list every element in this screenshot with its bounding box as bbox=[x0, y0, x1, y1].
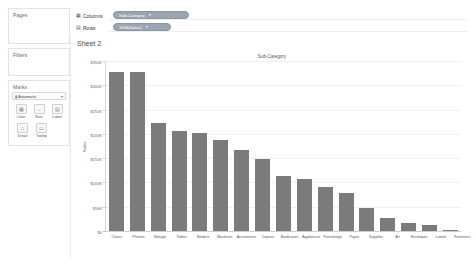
bar-slot[interactable] bbox=[210, 62, 231, 231]
plot-area: Sales $0$50K$100K$150K$200K$250K$300K$35… bbox=[105, 62, 461, 232]
y-tick-label: $350K bbox=[90, 60, 102, 65]
bar-mark[interactable] bbox=[151, 123, 166, 231]
bar-slot[interactable] bbox=[273, 62, 294, 231]
pages-card[interactable]: Pages bbox=[8, 8, 70, 44]
marks-tooltip-button[interactable]: ▭ Tooltip bbox=[35, 123, 48, 138]
x-axis-label[interactable]: Phones bbox=[128, 234, 150, 248]
x-axis-label[interactable]: Art bbox=[387, 234, 409, 248]
x-axis-label[interactable]: Tables bbox=[171, 234, 193, 248]
bar-mark[interactable] bbox=[109, 72, 124, 231]
bar-mark[interactable] bbox=[359, 208, 374, 231]
filters-card[interactable]: Filters bbox=[8, 48, 70, 76]
bar-mark[interactable] bbox=[276, 176, 291, 231]
chevron-down-icon[interactable]: ▾ bbox=[149, 13, 151, 17]
color-icon: ▦ bbox=[16, 104, 27, 114]
mark-type-dropdown[interactable]: ▮ Automatic ▾ bbox=[12, 92, 66, 100]
marks-tooltip-label: Tooltip bbox=[36, 134, 47, 138]
columns-shelf-icon: ▦ bbox=[76, 13, 81, 18]
bar-mark[interactable] bbox=[318, 187, 333, 231]
marks-color-button[interactable]: ▦ Color bbox=[15, 104, 28, 119]
columns-shelf-dropzone[interactable]: Sub-Category ▾ bbox=[109, 11, 468, 20]
bar-slot[interactable] bbox=[419, 62, 440, 231]
y-tick-mark bbox=[103, 61, 105, 62]
y-tick-label: $250K bbox=[90, 108, 102, 113]
x-axis-label[interactable]: Supplies bbox=[365, 234, 387, 248]
pill-sum-sales[interactable]: SUM(Sales) ▾ bbox=[113, 23, 171, 31]
chevron-down-icon[interactable]: ▾ bbox=[146, 25, 148, 29]
y-tick-mark bbox=[103, 231, 105, 232]
bar-mark[interactable] bbox=[130, 72, 145, 231]
x-axis-label[interactable]: Machines bbox=[214, 234, 236, 248]
bar-slot[interactable] bbox=[252, 62, 273, 231]
bar-mark[interactable] bbox=[297, 179, 312, 231]
marks-size-button[interactable]: ⇔ Size bbox=[33, 104, 46, 119]
x-axis-label[interactable]: Bookcases bbox=[279, 234, 301, 248]
marks-detail-button[interactable]: ∴ Detail bbox=[16, 123, 29, 138]
bar-mark[interactable] bbox=[192, 133, 207, 231]
x-axis-label[interactable]: Binders bbox=[192, 234, 214, 248]
y-tick-mark bbox=[103, 207, 105, 208]
detail-icon: ∴ bbox=[17, 123, 28, 133]
bar-slot[interactable] bbox=[148, 62, 169, 231]
bar-mark[interactable] bbox=[213, 140, 228, 231]
marks-card[interactable]: Marks ▮ Automatic ▾ ▦ Color ⇔ Size bbox=[8, 80, 70, 146]
plot-inner: $0$50K$100K$150K$200K$250K$300K$350K bbox=[105, 62, 461, 232]
bar-slot[interactable] bbox=[106, 62, 127, 231]
sheet-title: Sheet 2 bbox=[77, 40, 101, 47]
worksheet-canvas[interactable]: Sheet 2 Sub-Category Sales $0$50K$100K$1… bbox=[70, 36, 473, 258]
pill-sub-category[interactable]: Sub-Category ▾ bbox=[113, 11, 189, 19]
bar-slot[interactable] bbox=[315, 62, 336, 231]
bar-slot[interactable] bbox=[294, 62, 315, 231]
marks-label-button[interactable]: ▤ Label bbox=[51, 104, 64, 119]
bar-mark[interactable] bbox=[422, 225, 437, 231]
x-axis-label[interactable]: Labels bbox=[430, 234, 452, 248]
y-tick-mark bbox=[103, 182, 105, 183]
x-axis-label[interactable]: Copiers bbox=[257, 234, 279, 248]
bar-slot[interactable] bbox=[377, 62, 398, 231]
bar-mark[interactable] bbox=[339, 193, 354, 231]
bar-slot[interactable] bbox=[169, 62, 190, 231]
x-axis-label[interactable]: Fasteners bbox=[452, 234, 474, 248]
x-axis-label[interactable]: Accessories bbox=[236, 234, 258, 248]
marks-color-label: Color bbox=[16, 115, 25, 119]
y-axis-title: Sales bbox=[82, 142, 87, 152]
y-tick-label: $150K bbox=[90, 157, 102, 162]
x-axis-label[interactable]: Envelopes bbox=[408, 234, 430, 248]
rows-shelf[interactable]: ▤ Rows SUM(Sales) ▾ bbox=[76, 23, 468, 32]
label-icon: ▤ bbox=[52, 104, 63, 114]
marks-button-row-primary: ▦ Color ⇔ Size ▤ Label bbox=[12, 104, 66, 119]
bar-slot[interactable] bbox=[231, 62, 252, 231]
marks-detail-label: Detail bbox=[18, 134, 28, 138]
y-tick-label: $50K bbox=[93, 205, 102, 210]
bar-mark[interactable] bbox=[380, 218, 395, 231]
bar-slot[interactable] bbox=[127, 62, 148, 231]
bar-slot[interactable] bbox=[440, 62, 461, 231]
bar-mark-icon: ▮ bbox=[15, 94, 17, 99]
size-icon: ⇔ bbox=[34, 104, 45, 114]
rows-shelf-dropzone[interactable]: SUM(Sales) ▾ bbox=[109, 23, 468, 32]
filters-card-title: Filters bbox=[13, 52, 27, 58]
tableau-worksheet-window: Pages Filters Marks ▮ Automatic ▾ ▦ Colo… bbox=[0, 0, 476, 267]
pill-sub-category-text: Sub-Category bbox=[119, 13, 145, 18]
y-tick-mark bbox=[103, 134, 105, 135]
marks-card-body: ▮ Automatic ▾ ▦ Color ⇔ Size ▤ Lab bbox=[12, 92, 66, 142]
bar-mark[interactable] bbox=[234, 150, 249, 231]
chart-title: Sub-Category bbox=[71, 54, 473, 59]
columns-shelf[interactable]: ▦ Columns Sub-Category ▾ bbox=[76, 11, 468, 20]
x-axis-label[interactable]: Appliances bbox=[300, 234, 322, 248]
x-axis-label[interactable]: Chairs bbox=[106, 234, 128, 248]
x-axis-label[interactable]: Paper bbox=[344, 234, 366, 248]
bar-mark[interactable] bbox=[255, 159, 270, 231]
pill-sum-sales-text: SUM(Sales) bbox=[119, 25, 142, 30]
bar-mark[interactable] bbox=[443, 230, 458, 231]
x-axis-label[interactable]: Storage bbox=[149, 234, 171, 248]
bar-slot[interactable] bbox=[190, 62, 211, 231]
bar-slot[interactable] bbox=[398, 62, 419, 231]
bar-slot[interactable] bbox=[357, 62, 378, 231]
x-axis-label[interactable]: Furnishings bbox=[322, 234, 344, 248]
bar-series bbox=[106, 62, 461, 231]
y-tick-label: $0 bbox=[98, 230, 102, 235]
bar-mark[interactable] bbox=[401, 223, 416, 231]
bar-slot[interactable] bbox=[336, 62, 357, 231]
bar-mark[interactable] bbox=[172, 131, 187, 231]
